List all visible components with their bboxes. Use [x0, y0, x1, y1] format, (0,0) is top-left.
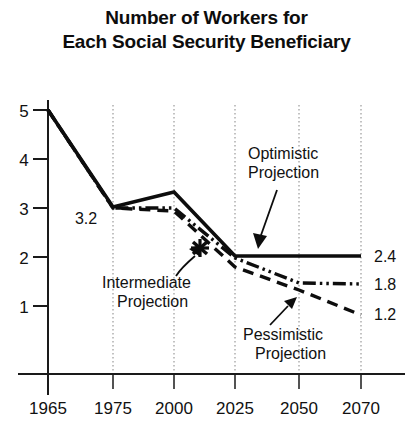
- annotation-pessimistic-arrow-shaft: [270, 306, 288, 325]
- end-label-intermediate: 1.8: [374, 276, 396, 293]
- x-tick-label-2050: 2050: [280, 399, 318, 418]
- annotation-intermediate-arrow-shaft: [176, 256, 195, 276]
- annotation-optimistic-arrow-head: [253, 233, 267, 249]
- x-tick-label-2025: 2025: [216, 399, 254, 418]
- y-tick-label-5: 5: [19, 102, 28, 121]
- x-tick-label-1965: 1965: [29, 399, 67, 418]
- x-axis-tick-labels: 1965 1975 2000 2025 2050 2070: [29, 399, 380, 418]
- annotation-intermediate-line-1: Intermediate: [102, 274, 191, 291]
- intermediate-marker-star: [191, 239, 209, 257]
- y-tick-label-4: 4: [19, 151, 28, 170]
- annotation-pessimistic-line-2: Projection: [255, 345, 326, 362]
- chart-figure: Number of Workers for Each Social Securi…: [0, 0, 413, 444]
- end-label-pessimistic: 1.2: [374, 306, 396, 323]
- x-axis-ticks: [48, 374, 361, 392]
- annotation-optimistic: Optimistic Projection: [248, 145, 319, 249]
- annotation-pessimistic: Pessimistic Projection: [243, 297, 326, 362]
- annotation-optimistic-arrow-shaft: [260, 190, 277, 238]
- chart-plot-area: 5 4 3 2 1 1965 1975 2000 2025 2050 2070: [0, 0, 413, 444]
- y-tick-label-3: 3: [19, 200, 28, 219]
- y-tick-label-2: 2: [19, 249, 28, 268]
- y-tick-label-1: 1: [19, 298, 28, 317]
- series-line-intermediate: [48, 110, 361, 284]
- annotation-optimistic-line-2: Projection: [248, 164, 319, 181]
- end-label-optimistic: 2.4: [374, 248, 396, 265]
- annotation-pessimistic-line-1: Pessimistic: [243, 326, 323, 343]
- annotation-intermediate-line-2: Projection: [117, 293, 188, 310]
- x-tick-label-1975: 1975: [94, 399, 132, 418]
- y-axis-tick-labels: 5 4 3 2 1: [19, 102, 28, 317]
- annotation-intermediate: Intermediate Projection: [102, 239, 209, 310]
- point-label-3-2: 3.2: [75, 210, 97, 227]
- x-tick-label-2070: 2070: [342, 399, 380, 418]
- y-axis-ticks: [33, 110, 48, 306]
- gridlines: [113, 105, 361, 374]
- x-tick-label-2000: 2000: [155, 399, 193, 418]
- annotation-optimistic-line-1: Optimistic: [248, 145, 318, 162]
